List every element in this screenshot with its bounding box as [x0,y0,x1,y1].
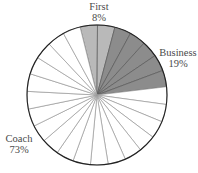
label-business-name: Business [158,47,198,58]
label-coach-name: Coach [2,133,36,144]
label-first-name: First [84,1,114,12]
label-business-pct: 19% [158,58,198,69]
label-coach-pct: 73% [2,144,36,155]
label-first-pct: 8% [84,12,114,23]
label-coach: Coach 73% [2,133,36,155]
label-business: Business 19% [158,47,198,69]
label-first: First 8% [84,1,114,23]
